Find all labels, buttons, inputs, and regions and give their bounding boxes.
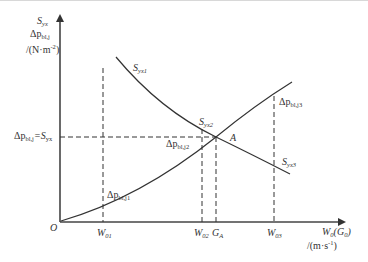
equality-label: Δpbl,j=Syx (14, 130, 53, 142)
y-axis-unit: /(N·m-2) (26, 43, 59, 56)
delta-p-curve (61, 82, 292, 221)
x-tick-w02: W02 (194, 227, 210, 239)
y-axis-label-dp: Δpbl,j (30, 28, 50, 40)
label-syx2: Syx2 (199, 116, 214, 128)
label-dp-j1: Δpbl,j1 (107, 189, 130, 201)
label-syx1: Syx1 (133, 62, 147, 74)
x-axis-label: W0(G0) (322, 226, 351, 238)
y-axis-label-syx: Syx (37, 15, 48, 27)
diagram-canvas: Syx Δpbl,j /(N·m-2) Δpbl,j=Syx O W01 W02… (0, 0, 368, 262)
label-syx3: Syx3 (282, 156, 297, 168)
origin-label: O (50, 222, 57, 233)
x-tick-w03: W03 (267, 227, 283, 239)
x-tick-ga: GA (212, 227, 223, 239)
label-dp-j2: Δpbl,j2 (166, 138, 189, 150)
x-axis-unit: /(m·s-1) (307, 239, 337, 252)
intersection-label-a: A (229, 132, 237, 143)
label-dp-j3: Δpbl,j3 (279, 96, 302, 108)
x-tick-w01: W01 (97, 227, 112, 239)
